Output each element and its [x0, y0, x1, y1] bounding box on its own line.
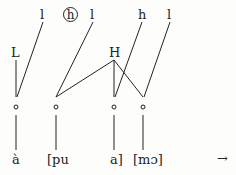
tone-node-H: H — [109, 46, 120, 59]
segment-a: a] — [110, 153, 123, 166]
circled-tone-h: h — [63, 7, 78, 22]
tone-node-L: L — [11, 46, 20, 59]
segment-pu: [pu — [47, 153, 69, 166]
floating-tone-l-3: l — [167, 8, 171, 21]
arrow-right-icon: → — [217, 152, 228, 165]
segment-mo: [mɔ] — [133, 153, 163, 166]
association-lines — [0, 0, 236, 175]
floating-tone-l-1: l — [40, 8, 44, 21]
floating-tone-l-2: l — [90, 8, 94, 21]
floating-tone-h: h — [138, 8, 146, 21]
segment-a-low: à — [12, 153, 20, 166]
autosegmental-diagram: l h l h l L H à [pu a] [mɔ] → — [0, 0, 236, 175]
